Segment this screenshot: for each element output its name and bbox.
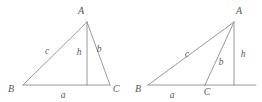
obtuse-vertex-label-a: A — [235, 5, 243, 16]
obtuse-vertex-label-c: C — [204, 86, 211, 97]
acute-vertex-label-b: B — [8, 83, 14, 94]
obtuse-side-label-a: a — [170, 90, 175, 100]
triangle-figures-svg: A B C a b c h A B C a b c h — [0, 0, 262, 102]
acute-side-label-a: a — [61, 90, 66, 100]
obtuse-side-c-line — [148, 22, 234, 85]
obtuse-side-label-c: c — [185, 49, 190, 59]
acute-vertex-label-a: A — [77, 5, 85, 16]
acute-side-label-c: c — [45, 46, 50, 56]
acute-side-label-b: b — [97, 44, 102, 54]
obtuse-vertex-label-b: B — [135, 83, 141, 94]
acute-altitude-label-h: h — [77, 47, 82, 57]
obtuse-altitude-label-h: h — [241, 49, 246, 59]
acute-vertex-label-c: C — [113, 83, 120, 94]
obtuse-triangle-figure: A B C a b c h — [135, 5, 256, 100]
figure-panel: A B C a b c h A B C a b c h — [0, 0, 262, 102]
obtuse-side-b-line — [205, 22, 234, 85]
obtuse-side-label-b: b — [219, 57, 224, 67]
acute-triangle-figure: A B C a b c h — [8, 5, 120, 100]
